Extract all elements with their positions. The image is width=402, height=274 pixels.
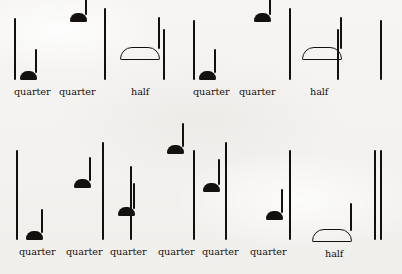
note-duration-label: quarter [250,246,286,257]
note-quarter [254,0,271,22]
note-duration-label: quarter [59,86,95,97]
note-stem [350,203,352,231]
note-duration-label: quarter [193,86,229,97]
barline [193,150,195,240]
music-sheet: quarterquarterhalfquarterquarterhalf qua… [0,0,402,274]
note-stem [85,0,87,15]
note-duration-label: half [131,86,149,97]
note-duration-label: half [310,86,328,97]
note-quarter [70,0,87,22]
note-quarter [167,130,184,154]
note-duration-label: quarter [158,246,194,257]
note-quarter [266,196,283,220]
note-duration-label: quarter [19,246,55,257]
double-barline [374,150,376,240]
barline [289,150,291,240]
barline [16,150,18,240]
note-quarter [20,56,37,80]
note-stem [35,49,37,73]
barline [289,8,291,80]
note-stem [182,123,184,147]
note-stem [158,17,160,49]
note-duration-label: quarter [14,86,50,97]
barline [14,18,16,80]
note-quarter [26,216,43,240]
notehead-open-icon [302,47,342,60]
note-duration-label: half [325,248,343,259]
note-stem [269,0,271,15]
barline [193,20,195,80]
stave-bottom: quarterquarterquarterquarterquarterquart… [0,128,402,274]
note-quarter [74,164,91,188]
note-stem [214,49,216,73]
note-duration-label: quarter [202,246,238,257]
barline [102,142,104,240]
note-stem [41,209,43,233]
note-duration-label: quarter [239,86,275,97]
note-stem [89,157,91,181]
note-stem [281,189,283,213]
barline [380,20,382,80]
note-half [120,28,160,60]
note-stem [218,159,220,185]
note-half [312,214,352,242]
note-quarter [203,166,220,192]
note-duration-label: quarter [66,246,102,257]
barline [163,29,165,80]
note-duration-label: quarter [110,246,146,257]
barline [225,142,227,240]
notehead-open-icon [120,47,160,60]
barline [104,8,106,80]
stave-top: quarterquarterhalfquarterquarterhalf [0,0,402,108]
note-quarter [118,190,135,216]
notehead-open-icon [312,229,352,242]
note-stem [133,183,135,209]
note-half [302,28,342,60]
note-quarter [199,56,216,80]
double-barline [380,150,382,240]
note-stem [340,17,342,49]
